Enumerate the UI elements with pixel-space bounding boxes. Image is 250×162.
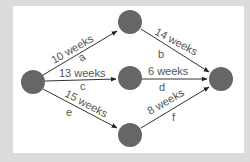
- edge-c-activity: c: [80, 80, 86, 92]
- edge-e-activity: e: [66, 106, 72, 118]
- node-top: [118, 10, 142, 34]
- node-end: [209, 67, 233, 91]
- node-start: [21, 70, 45, 94]
- edge-a-duration: 10 weeks: [49, 32, 96, 66]
- edge-c-duration: 13 weeks: [59, 67, 106, 79]
- node-bottom: [118, 123, 142, 147]
- network-diagram: 10 weeks a 13 weeks c 15 weeks e 14 week…: [0, 0, 250, 162]
- edge-b-activity: b: [158, 48, 164, 60]
- edge-d-activity: d: [159, 81, 165, 93]
- node-middle: [118, 66, 142, 90]
- edge-a-activity: a: [76, 50, 88, 64]
- edge-f-duration: 8 weeks: [145, 86, 186, 117]
- edge-f-activity: f: [172, 111, 176, 123]
- edge-d-duration: 6 weeks: [148, 65, 189, 77]
